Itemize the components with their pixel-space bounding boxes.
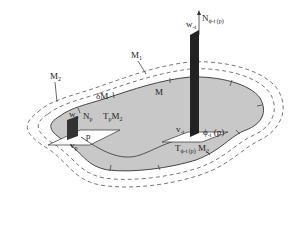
manifold-diagram xyxy=(0,0,291,226)
label-vp: vp xyxy=(70,141,78,151)
label-wp: wp xyxy=(69,110,79,120)
label-n-phi: Nϕ-t (p) xyxy=(202,14,224,24)
label-boundary: δM xyxy=(96,92,108,101)
label-v-t: v-t xyxy=(176,125,184,135)
label-m1: M1 xyxy=(131,51,142,61)
label-p: p xyxy=(86,132,91,141)
label-m2: M2 xyxy=(50,72,61,82)
label-np: Np xyxy=(83,112,93,122)
label-m: M xyxy=(155,88,163,97)
label-tpm2: TpM2 xyxy=(103,112,123,122)
label-t-phi-m2: Tϕ-t (p) M2 xyxy=(175,144,209,154)
label-w-t: w-t xyxy=(186,20,196,30)
normal-plane-phi xyxy=(190,30,199,137)
label-phi-p: ϕ-t (p) xyxy=(203,128,224,138)
